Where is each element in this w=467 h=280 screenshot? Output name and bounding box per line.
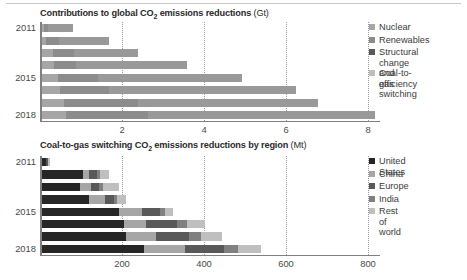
- bar-segment-nuclear: [42, 99, 65, 107]
- bar-segment-structural_change_and_efficiency: [76, 61, 179, 69]
- legend-label: Renewables: [379, 35, 430, 46]
- legend-item-rest_of_world[interactable]: Rest of world: [369, 206, 401, 238]
- bar-row: [42, 37, 382, 45]
- bar-segment-india: [177, 220, 187, 229]
- bar-segment-united_states: [42, 220, 124, 229]
- legend-swatch-icon: [369, 24, 375, 30]
- bar-row: [42, 170, 382, 179]
- bar-row: [42, 111, 382, 119]
- bar-segment-india: [189, 232, 201, 241]
- bar-row: [42, 61, 382, 69]
- bar-segment-united_states: [42, 195, 89, 204]
- legend-swatch-icon: [369, 208, 375, 214]
- bar-segment-united_states: [42, 245, 145, 254]
- bar-segment-renewables: [64, 99, 138, 107]
- legend-swatch-icon: [369, 171, 375, 177]
- legend-item-nuclear[interactable]: Nuclear: [369, 22, 411, 33]
- bar-segment-renewables: [54, 61, 77, 69]
- bar-segment-europe: [146, 220, 177, 229]
- legend-item-coal_to_gas_switching[interactable]: Coal-to-gas switching: [369, 68, 417, 100]
- bar-segment-structural_change_and_efficiency: [109, 86, 274, 94]
- bar-segment-rest_of_world: [117, 195, 126, 204]
- bar-segment-rest_of_world: [100, 170, 109, 179]
- bar-segment-china: [80, 183, 90, 192]
- bar-row: [42, 86, 382, 94]
- legend-swatch-icon: [369, 49, 375, 55]
- bar-segment-india: [224, 245, 238, 254]
- bar-segment-renewables: [60, 86, 109, 94]
- bar-segment-rest_of_world: [48, 158, 49, 167]
- legend-label: China: [379, 169, 403, 180]
- bar-segment-united_states: [42, 208, 120, 217]
- legend-label: India: [379, 194, 399, 205]
- y-axis-tick-label: 2018: [0, 109, 36, 120]
- bar-row: [42, 208, 382, 217]
- bar-row: [42, 24, 382, 32]
- bar-segment-europe: [142, 208, 160, 217]
- bar-segment-coal_to_gas_switching: [179, 61, 187, 69]
- bar-segment-renewables: [58, 74, 99, 82]
- chart-panel-contributions: Contributions to global CO2 emissions re…: [0, 8, 467, 140]
- legend-label: Rest of world: [379, 206, 401, 238]
- bar-segment-china: [144, 245, 185, 254]
- bar-segment-coal_to_gas_switching: [103, 37, 109, 45]
- figure-container: Contributions to global CO2 emissions re…: [0, 0, 467, 280]
- legend-swatch-icon: [369, 158, 375, 164]
- bar-segment-coal_to_gas_switching: [224, 74, 242, 82]
- bar-segment-renewables: [53, 49, 75, 57]
- legend-label: Coal-to-gas switching: [379, 68, 417, 100]
- legend-item-china[interactable]: China: [369, 169, 403, 180]
- x-axis-tick-label: 800: [343, 258, 393, 269]
- bar-row: [42, 158, 382, 167]
- bar-segment-renewables: [66, 111, 148, 119]
- x-axis-line: [40, 121, 380, 122]
- bar-row: [42, 232, 382, 241]
- bar-segment-rest_of_world: [103, 183, 119, 192]
- bar-segment-rest_of_world: [201, 232, 222, 241]
- top-rule: [6, 3, 461, 4]
- bar-segment-europe: [185, 245, 224, 254]
- bar-row: [42, 49, 382, 57]
- bar-segment-rest_of_world: [165, 208, 172, 217]
- bar-segment-china: [89, 195, 105, 204]
- bar-segment-coal_to_gas_switching: [351, 111, 375, 119]
- x-axis-tick-label: 600: [261, 258, 311, 269]
- bar-segment-nuclear: [42, 61, 54, 69]
- bar-segment-structural_change_and_efficiency: [98, 74, 224, 82]
- bar-row: [42, 195, 382, 204]
- x-axis-tick-label: 4: [179, 124, 229, 135]
- x-axis-tick-label: 8: [343, 124, 393, 135]
- legend-item-renewables[interactable]: Renewables: [369, 35, 430, 46]
- bar-segment-europe: [156, 232, 189, 241]
- x-axis-tick-label: 200: [97, 258, 147, 269]
- legend-swatch-icon: [369, 37, 375, 43]
- x-axis-line: [40, 255, 380, 256]
- bar-segment-nuclear: [42, 111, 67, 119]
- legend-item-europe[interactable]: Europe: [369, 181, 409, 192]
- y-axis-tick-label: 2015: [0, 206, 36, 217]
- bar-segment-rest_of_world: [187, 220, 205, 229]
- bar-row: [42, 220, 382, 229]
- bar-segment-europe: [91, 183, 99, 192]
- bar-segment-nuclear: [42, 49, 53, 57]
- legend-label: Europe: [379, 181, 409, 192]
- x-axis-tick-label: 400: [179, 258, 229, 269]
- bar-segment-nuclear: [42, 74, 58, 82]
- bar-segment-renewables: [46, 37, 58, 45]
- x-axis-tick-label: 6: [261, 124, 311, 135]
- bar-segment-structural_change_and_efficiency: [74, 49, 132, 57]
- chart-panel-coal-to-gas-by-region: Coal-to-gas switching CO2 emissions redu…: [0, 140, 467, 280]
- y-axis-tick-label: 2015: [0, 72, 36, 83]
- bar-segment-structural_change_and_efficiency: [138, 99, 296, 107]
- bar-segment-nuclear: [42, 86, 60, 94]
- bar-row: [42, 245, 382, 254]
- bar-row: [42, 99, 382, 107]
- bar-segment-united_states: [42, 183, 81, 192]
- bar-segment-united_states: [42, 232, 126, 241]
- y-axis-tick-label: 2011: [0, 156, 36, 167]
- bar-segment-structural_change_and_efficiency: [59, 37, 103, 45]
- legend-item-india[interactable]: India: [369, 194, 399, 205]
- y-axis-tick-label: 2011: [0, 22, 36, 33]
- x-axis-tick-label: 2: [97, 124, 147, 135]
- legend-swatch-icon: [369, 70, 375, 76]
